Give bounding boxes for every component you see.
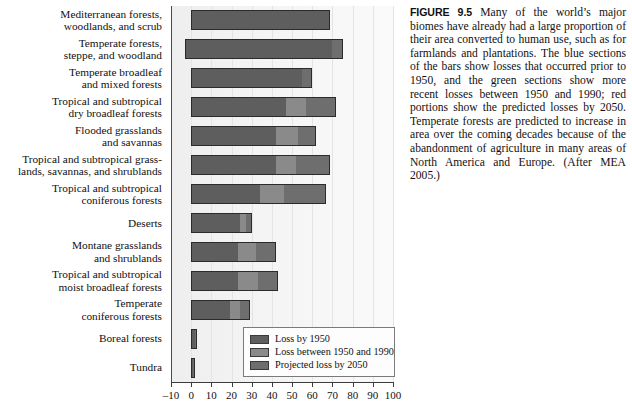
legend-item[interactable]: Loss between 1950 and 1990 bbox=[250, 346, 388, 358]
gridline bbox=[393, 6, 394, 382]
legend-item[interactable]: Projected loss by 2050 bbox=[250, 359, 388, 371]
category-label-line: steppe, and woodland bbox=[64, 49, 162, 61]
axis-tick bbox=[252, 382, 253, 387]
chart-legend: Loss by 1950Loss between 1950 and 1990Pr… bbox=[243, 327, 395, 377]
chart-panel: Mediterranean forests,woodlands, and scr… bbox=[0, 0, 404, 412]
legend-swatch-loss-by-1950 bbox=[250, 335, 269, 344]
category-label: Tropical and subtropicaldry broadleaf fo… bbox=[52, 95, 162, 120]
axis-tick-label: 100 bbox=[385, 389, 402, 401]
bar-segment-s3 bbox=[332, 39, 342, 59]
bar-segment-s1 bbox=[191, 10, 330, 30]
bar-row[interactable] bbox=[171, 184, 393, 204]
plot-area bbox=[171, 6, 393, 382]
category-axis-labels: Mediterranean forests,woodlands, and scr… bbox=[0, 0, 168, 382]
category-label: Temperateconiferous forests bbox=[81, 297, 162, 322]
legend-item[interactable]: Loss by 1950 bbox=[250, 333, 388, 345]
bar-segment-s3 bbox=[256, 242, 276, 262]
legend-label: Loss by 1950 bbox=[275, 333, 330, 345]
category-label-line: Temperate bbox=[81, 297, 162, 309]
axis-tick-label: 20 bbox=[226, 389, 237, 401]
axis-tick bbox=[232, 382, 233, 387]
category-label: Temperate forests,steppe, and woodland bbox=[64, 37, 162, 62]
axis-tick-label: 60 bbox=[307, 389, 318, 401]
bar-segment-s3 bbox=[240, 300, 250, 320]
bar-row[interactable] bbox=[171, 97, 393, 117]
bar-row[interactable] bbox=[171, 155, 393, 175]
category-label-line: and mixed forests bbox=[69, 78, 162, 90]
axis-tick bbox=[353, 382, 354, 387]
bar-segment-s3 bbox=[284, 184, 326, 204]
bar-segment-s3 bbox=[258, 271, 278, 291]
legend-swatch-projected-2050 bbox=[250, 361, 269, 370]
axis-tick-label: 80 bbox=[347, 389, 358, 401]
axis-tick-label: 10 bbox=[206, 389, 217, 401]
category-label-line: Tropical and subtropical bbox=[52, 95, 162, 107]
bar-segment-s1 bbox=[191, 97, 286, 117]
bar-row[interactable] bbox=[171, 126, 393, 146]
category-label-line: Deserts bbox=[128, 217, 162, 229]
bar-row[interactable] bbox=[171, 300, 393, 320]
category-label-line: Boreal forests bbox=[99, 332, 162, 344]
category-label: Tundra bbox=[130, 361, 162, 373]
category-label-line: Tropical and subtropical grass- bbox=[18, 153, 162, 165]
category-label: Boreal forests bbox=[99, 332, 162, 344]
bar-segment-s2 bbox=[276, 126, 298, 146]
axis-tick bbox=[393, 382, 394, 387]
axis-tick bbox=[191, 382, 192, 387]
category-label-line: Temperate forests, bbox=[64, 37, 162, 49]
bar-segment-s1 bbox=[191, 242, 237, 262]
bar-row[interactable] bbox=[171, 68, 393, 88]
category-label: Mediterranean forests,woodlands, and scr… bbox=[60, 8, 162, 33]
category-label-line: lands, savannas, and shrublands bbox=[18, 165, 162, 177]
bar-segment-s2 bbox=[238, 242, 256, 262]
axis-tick-label: 30 bbox=[246, 389, 257, 401]
axis-tick bbox=[373, 382, 374, 387]
figure-caption-label: FIGURE 9.5 bbox=[410, 6, 472, 18]
category-label: Temperate broadleafand mixed forests bbox=[69, 66, 162, 91]
legend-label: Projected loss by 2050 bbox=[275, 359, 368, 371]
category-label-line: Temperate broadleaf bbox=[69, 66, 162, 78]
category-label-line: Flooded grasslands bbox=[75, 124, 162, 136]
category-label: Tropical and subtropicalmoist broadleaf … bbox=[52, 268, 162, 293]
bar-segment-s1 bbox=[185, 39, 332, 59]
bar-segment-s2 bbox=[286, 97, 306, 117]
legend-swatch-loss-1950-1990 bbox=[250, 348, 269, 357]
bar-segment-s2 bbox=[276, 155, 296, 175]
category-label-line: coniferous forests bbox=[52, 194, 162, 206]
bar-segment-s1 bbox=[191, 300, 229, 320]
axis-tick-label: 50 bbox=[287, 389, 298, 401]
bar-segment-s1 bbox=[191, 126, 276, 146]
axis-tick-label: 0 bbox=[188, 389, 194, 401]
bar-row[interactable] bbox=[171, 242, 393, 262]
category-label-line: Tropical and subtropical bbox=[52, 268, 162, 280]
category-label-line: Tropical and subtropical bbox=[52, 182, 162, 194]
bar-row[interactable] bbox=[171, 10, 393, 30]
bar-segment-s3 bbox=[302, 68, 312, 88]
bar-row[interactable] bbox=[171, 271, 393, 291]
category-label: Tropical and subtropicalconiferous fores… bbox=[52, 182, 162, 207]
bar-segment-s2 bbox=[260, 184, 284, 204]
bar-segment-s1 bbox=[191, 184, 260, 204]
bar-segment-s2 bbox=[230, 300, 240, 320]
axis-tick bbox=[332, 382, 333, 387]
axis-tick-label: 40 bbox=[266, 389, 277, 401]
category-label-line: moist broadleaf forests bbox=[52, 281, 162, 293]
bar-segment-s3 bbox=[195, 329, 197, 349]
bar-segment-s1 bbox=[191, 213, 239, 233]
axis-tick-label: 90 bbox=[367, 389, 378, 401]
figure-caption-text: Many of the world’s major biomes have al… bbox=[410, 6, 626, 182]
category-label-line: and savannas bbox=[75, 136, 162, 148]
category-label-line: Mediterranean forests, bbox=[60, 8, 162, 20]
category-label: Deserts bbox=[128, 217, 162, 229]
figure-9-5: Mediterranean forests,woodlands, and scr… bbox=[0, 0, 632, 412]
bar-row[interactable] bbox=[171, 39, 393, 59]
bar-row[interactable] bbox=[171, 213, 393, 233]
axis-tick bbox=[292, 382, 293, 387]
category-label-line: coniferous forests bbox=[81, 310, 162, 322]
category-label: Tropical and subtropical grass-lands, sa… bbox=[18, 153, 162, 178]
bar-segment-s3 bbox=[296, 155, 330, 175]
axis-tick bbox=[211, 382, 212, 387]
category-label-line: woodlands, and scrub bbox=[60, 20, 162, 32]
legend-label: Loss between 1950 and 1990 bbox=[275, 346, 394, 358]
axis-tick bbox=[272, 382, 273, 387]
